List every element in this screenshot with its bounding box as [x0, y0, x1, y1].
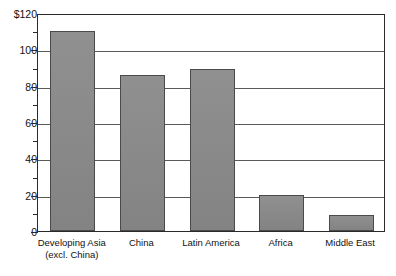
plot-area: [37, 14, 385, 232]
bar-1: [120, 75, 165, 231]
bar-2: [190, 69, 235, 231]
bar-0: [50, 31, 95, 231]
bar-chart: 020406080100$120 Developing Asia(excl. C…: [0, 0, 396, 276]
bar-3: [259, 195, 304, 231]
bar-4: [329, 215, 374, 231]
y-axis: 020406080100$120: [0, 0, 37, 276]
y-tick-label-120: $120: [3, 9, 37, 20]
x-tick-label-4: Middle East: [295, 237, 396, 249]
